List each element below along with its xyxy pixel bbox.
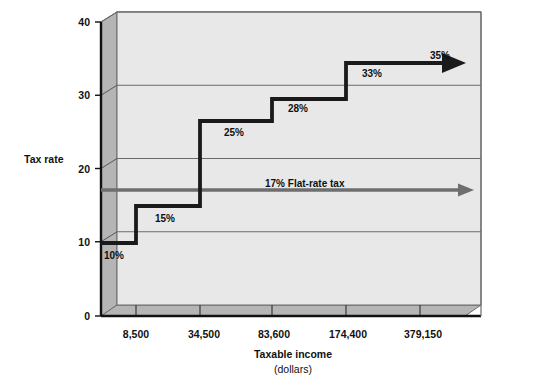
x-tick-label-5: 379,150: [404, 328, 442, 340]
x-tick-label-2: 34,500: [188, 328, 220, 340]
x-axis-title: Taxable income: [254, 348, 332, 360]
tax-rate-chart: 10% 15% 25% 28% 33% 35% 17% Flat-rate ta…: [0, 0, 544, 386]
y-tick-label-20: 20: [78, 163, 90, 175]
chart-canvas: 10% 15% 25% 28% 33% 35% 17% Flat-rate ta…: [0, 0, 544, 386]
bracket-label-10: 10%: [104, 250, 124, 261]
y-tick-label-40: 40: [78, 16, 90, 28]
y-tick-label-0: 0: [84, 310, 90, 322]
bracket-label-33: 33%: [362, 68, 382, 79]
bracket-label-28: 28%: [288, 103, 308, 114]
y-axis-title: Tax rate: [24, 153, 64, 165]
x-tick-label-1: 8,500: [123, 328, 149, 340]
bracket-label-25: 25%: [224, 127, 244, 138]
x-axis-subtitle: (dollars): [274, 363, 312, 375]
x-tick-label-3: 83,600: [258, 328, 290, 340]
bracket-label-15: 15%: [155, 213, 175, 224]
x-tick-label-4: 174,400: [329, 328, 367, 340]
bracket-label-35: 35%: [430, 50, 450, 61]
plot-floor-face: [101, 305, 481, 316]
y-tick-label-10: 10: [78, 236, 90, 248]
flat-rate-label: 17% Flat-rate tax: [265, 178, 345, 189]
y-tick-label-30: 30: [78, 89, 90, 101]
